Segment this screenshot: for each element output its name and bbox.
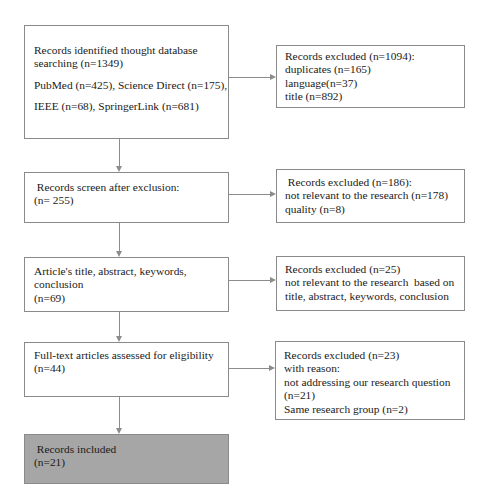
excluded-3-line-1: Records excluded (n=25) bbox=[285, 263, 464, 276]
excluded-3-line-2: not relevant to the research based on bbox=[285, 276, 464, 289]
arrow-right-icon bbox=[270, 74, 276, 80]
excluded-1-line-1: Records excluded (n=1094): bbox=[285, 50, 464, 63]
identified-line-3: PubMed (n=425), Science Direct (n=175), bbox=[34, 79, 228, 92]
full-text-line-2: (n=44) bbox=[34, 362, 228, 375]
excluded-4-line-1: Records excluded (n=23) bbox=[284, 349, 464, 362]
title-abstract-line-3: (n=69) bbox=[34, 292, 228, 305]
connector-4-to-5 bbox=[119, 397, 120, 428]
excluded-1-line-3: language(n=37) bbox=[285, 77, 464, 90]
excluded-4-line-4: (n=21) bbox=[284, 389, 464, 402]
identified-line-2: searching (n=1349) bbox=[34, 57, 228, 70]
excluded-1-line-2: duplicates (n=165) bbox=[285, 63, 464, 76]
screened-line-2: (n= 255) bbox=[34, 194, 228, 207]
box-excluded-1: Records excluded (n=1094): duplicates (n… bbox=[276, 45, 465, 108]
title-abstract-line-1: Article's title, abstract, keywords, bbox=[34, 265, 228, 278]
screened-line-1: Records screen after exclusion: bbox=[34, 181, 228, 194]
box-full-text: Full-text articles assessed for eligibil… bbox=[24, 342, 229, 397]
arrow-down-icon bbox=[116, 336, 122, 342]
box-excluded-4: Records excluded (n=23) with reason: not… bbox=[275, 341, 465, 420]
excluded-2-line-2: not relevant to the research (n=178) bbox=[285, 189, 464, 202]
connector-to-excluded-2 bbox=[229, 194, 270, 195]
box-records-screened: Records screen after exclusion: (n= 255) bbox=[24, 172, 229, 223]
arrow-right-icon bbox=[270, 191, 276, 197]
excluded-2-line-3: quality (n=8) bbox=[285, 203, 464, 216]
title-abstract-line-2: conclusion bbox=[34, 278, 228, 291]
identified-line-4: IEEE (n=68), SpringerLink (n=681) bbox=[34, 100, 228, 113]
arrow-down-icon bbox=[116, 251, 122, 257]
excluded-4-line-5: Same research group (n=2) bbox=[284, 403, 464, 416]
arrow-right-icon bbox=[269, 365, 275, 371]
box-excluded-3: Records excluded (n=25) not relevant to … bbox=[276, 256, 465, 311]
box-records-included: Records included (n=21) bbox=[24, 434, 229, 484]
connector-2-to-3 bbox=[119, 223, 120, 251]
connector-1-to-2 bbox=[119, 139, 120, 166]
box-title-abstract: Article's title, abstract, keywords, con… bbox=[24, 257, 229, 312]
box-excluded-2: Records excluded (n=186): not relevant t… bbox=[276, 169, 465, 223]
arrow-right-icon bbox=[270, 277, 276, 283]
excluded-1-line-4: title (n=892) bbox=[285, 90, 464, 103]
connector-3-to-4 bbox=[119, 312, 120, 336]
identified-line-1: Records identified thought database bbox=[34, 44, 228, 57]
excluded-4-line-2: with reason: bbox=[284, 362, 464, 375]
connector-to-excluded-1 bbox=[229, 77, 270, 78]
excluded-4-line-3: not addressing our research question bbox=[284, 376, 464, 389]
included-line-2: (n=21) bbox=[34, 456, 228, 469]
arrow-down-icon bbox=[116, 428, 122, 434]
box-records-identified: Records identified thought database sear… bbox=[24, 25, 229, 139]
excluded-2-line-1: Records excluded (n=186): bbox=[285, 176, 464, 189]
connector-to-excluded-3 bbox=[229, 280, 270, 281]
arrow-down-icon bbox=[116, 166, 122, 172]
included-line-1: Records included bbox=[34, 443, 228, 456]
excluded-3-line-3: title, abstract, keywords, conclusion bbox=[285, 290, 464, 303]
connector-to-excluded-4 bbox=[229, 368, 269, 369]
full-text-line-1: Full-text articles assessed for eligibil… bbox=[34, 349, 228, 362]
